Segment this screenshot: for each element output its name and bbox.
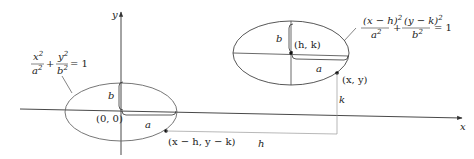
origin-b-label: b xyxy=(108,90,114,101)
translated-equation-pointer xyxy=(344,28,356,41)
svg-text:+: + xyxy=(393,22,401,33)
origin-a-label: a xyxy=(145,119,151,130)
point-xy-label: (x, y) xyxy=(342,74,368,85)
svg-text:= 1: = 1 xyxy=(434,22,452,33)
horizontal-shift-line xyxy=(166,131,337,134)
svg-text:b2: b2 xyxy=(57,64,68,76)
center-hk-label: (h, k) xyxy=(294,39,321,50)
center-hk-dot xyxy=(289,51,293,55)
svg-text:a2: a2 xyxy=(371,28,382,40)
translated-point-label: (x − h, y − k) xyxy=(168,136,236,147)
svg-text:y2: y2 xyxy=(57,50,69,62)
origin-ellipse-equation: x2 a2 + y2 b2 = 1 xyxy=(31,50,88,76)
svg-text:b2: b2 xyxy=(412,28,423,40)
x-axis xyxy=(20,109,462,118)
origin-label: (0, 0) xyxy=(96,113,123,124)
translated-a-label: a xyxy=(316,63,322,74)
translated-ellipse-equation: (x − h)2 a2 + (y − k)2 b2 = 1 xyxy=(361,14,452,40)
svg-text:+: + xyxy=(46,58,54,69)
svg-text:x2: x2 xyxy=(33,50,44,62)
x-axis-label: x xyxy=(460,121,466,132)
y-axis-label: y xyxy=(111,9,118,20)
translated-ellipse-diagram: x y b a (0, 0) (x − h, y − k) x2 a2 + y2… xyxy=(0,0,474,159)
origin-equation-pointer xyxy=(62,76,72,93)
svg-text:a2: a2 xyxy=(32,64,43,76)
translated-b-label: b xyxy=(276,33,282,44)
svg-text:= 1: = 1 xyxy=(70,58,88,69)
shift-h-label: h xyxy=(258,138,264,149)
shift-k-label: k xyxy=(339,94,345,105)
